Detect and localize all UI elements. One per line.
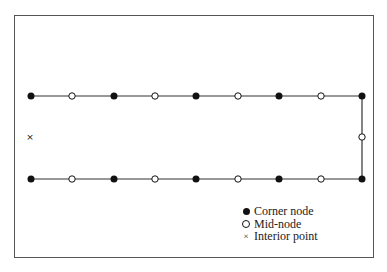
mid-node (318, 93, 324, 99)
mid-node (235, 176, 241, 182)
mesh-diagram: × (0, 0, 387, 272)
corner-node (359, 176, 366, 183)
legend-label: Interior point (254, 230, 318, 243)
mid-node (69, 93, 75, 99)
legend-item-interior-point: × Interior point (238, 230, 318, 243)
legend: Corner node Mid-node × Interior point (238, 205, 318, 243)
open-circle-icon (238, 220, 254, 228)
mid-node (152, 176, 158, 182)
legend-item-corner-node: Corner node (238, 205, 318, 218)
mid-node (152, 93, 158, 99)
corner-node (28, 176, 35, 183)
filled-circle-icon (238, 208, 254, 215)
mid-node (235, 93, 241, 99)
corner-node (111, 93, 118, 100)
mid-node (359, 134, 365, 140)
corner-node (193, 176, 200, 183)
interior-point: × (26, 132, 34, 142)
corner-node (276, 176, 283, 183)
mid-node (69, 176, 75, 182)
corner-node (276, 93, 283, 100)
corner-node (111, 176, 118, 183)
corner-node (359, 93, 366, 100)
cross-icon: × (238, 230, 254, 243)
legend-label: Corner node (254, 205, 314, 218)
corner-node (193, 93, 200, 100)
corner-node (28, 93, 35, 100)
mid-node (318, 176, 324, 182)
